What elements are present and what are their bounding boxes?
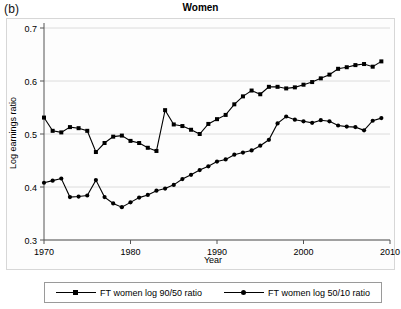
square-marker-icon	[267, 85, 271, 89]
square-marker-icon	[224, 113, 228, 117]
square-marker-icon	[129, 139, 133, 143]
circle-marker-icon	[275, 121, 279, 125]
circle-marker-icon	[51, 179, 55, 183]
square-marker-icon	[180, 124, 184, 128]
square-marker-icon	[85, 129, 89, 133]
y-tick-label: 0.4	[24, 183, 37, 193]
circle-marker-icon	[154, 189, 158, 193]
gridlines	[44, 28, 390, 240]
circle-marker-icon	[180, 177, 184, 181]
square-marker-icon	[327, 73, 331, 77]
circle-marker-icon	[336, 123, 340, 127]
circle-marker-icon	[163, 186, 167, 190]
series-1	[42, 59, 383, 154]
square-marker-icon	[241, 94, 245, 98]
y-tick-label: 0.7	[24, 24, 37, 34]
square-marker-icon	[68, 125, 72, 129]
circle-marker-icon	[284, 114, 288, 118]
circle-marker-icon	[241, 150, 245, 154]
circle-marker-icon	[258, 144, 262, 148]
square-marker-icon	[59, 130, 63, 134]
circle-marker-icon	[206, 164, 210, 168]
circle-marker-icon	[319, 118, 323, 122]
circle-marker-icon	[224, 292, 264, 293]
square-marker-icon	[345, 65, 349, 69]
chart-legend: FT women log 90/50 ratio FT women log 50…	[44, 282, 382, 303]
y-tick-label: 0.3	[24, 236, 37, 246]
x-tick-label: 1970	[34, 247, 54, 257]
square-marker-icon	[319, 76, 323, 80]
legend-item-5010[interactable]: FT women log 50/10 ratio	[224, 288, 370, 298]
x-tick-label: 2000	[293, 247, 313, 257]
circle-marker-icon	[111, 201, 115, 205]
square-marker-icon	[284, 86, 288, 90]
chart-canvas: 0.30.40.50.60.7 19701980199020002010 Log…	[0, 0, 401, 309]
square-marker-icon	[94, 150, 98, 154]
square-marker-icon	[103, 141, 107, 145]
circle-marker-icon	[189, 173, 193, 177]
series-line	[44, 117, 381, 208]
square-marker-icon	[276, 85, 280, 89]
square-marker-icon	[379, 59, 383, 63]
circle-marker-icon	[77, 194, 81, 198]
circle-marker-icon	[327, 119, 331, 123]
circle-marker-icon	[267, 138, 271, 142]
circle-marker-icon	[379, 116, 383, 120]
square-marker-icon	[154, 149, 158, 153]
circle-marker-icon	[137, 196, 141, 200]
circle-marker-icon	[362, 128, 366, 132]
x-axis-title: Year	[204, 255, 222, 265]
square-marker-icon	[77, 126, 81, 130]
square-marker-icon	[198, 132, 202, 136]
square-marker-icon	[111, 135, 115, 139]
y-tick-labels: 0.30.40.50.60.7	[24, 24, 37, 246]
square-marker-icon	[172, 122, 176, 126]
circle-marker-icon	[345, 124, 349, 128]
circle-marker-icon	[224, 157, 228, 161]
figure-women-log-earnings-ratio: (b) Women 0.30.40.50.60.7 19701980199020…	[0, 0, 401, 309]
square-marker-icon	[310, 80, 314, 84]
circle-marker-icon	[353, 125, 357, 129]
circle-marker-icon	[120, 205, 124, 209]
y-tick-label: 0.6	[24, 77, 37, 87]
square-marker-icon	[146, 146, 150, 150]
legend-label-9050: FT women log 90/50 ratio	[100, 288, 202, 298]
circle-marker-icon	[310, 121, 314, 125]
circle-marker-icon	[293, 118, 297, 122]
square-marker-icon	[215, 117, 219, 121]
circle-marker-icon	[102, 195, 106, 199]
circle-marker-icon	[42, 181, 46, 185]
circle-marker-icon	[232, 153, 236, 157]
legend-label-5010: FT women log 50/10 ratio	[268, 288, 370, 298]
series-2	[42, 114, 384, 209]
square-marker-icon	[189, 128, 193, 132]
y-tick-label: 0.5	[24, 130, 37, 140]
square-marker-icon	[353, 63, 357, 67]
square-marker-icon	[258, 92, 262, 96]
square-marker-icon	[302, 83, 306, 87]
circle-marker-icon	[301, 119, 305, 123]
circle-marker-icon	[128, 200, 132, 204]
square-marker-icon	[137, 141, 141, 145]
circle-marker-icon	[371, 119, 375, 123]
circle-marker-icon	[94, 178, 98, 182]
x-tick-label: 2010	[380, 247, 400, 257]
square-marker-icon	[250, 89, 254, 93]
square-marker-icon	[51, 129, 55, 133]
legend-item-9050[interactable]: FT women log 90/50 ratio	[56, 288, 202, 298]
square-marker-icon	[163, 108, 167, 112]
circle-marker-icon	[68, 195, 72, 199]
square-marker-icon	[362, 62, 366, 66]
circle-marker-icon	[85, 193, 89, 197]
square-marker-icon	[206, 122, 210, 126]
square-marker-icon	[120, 134, 124, 138]
square-marker-icon	[336, 67, 340, 71]
y-axis-title: Log earnings ratio	[8, 97, 18, 169]
square-marker-icon	[371, 65, 375, 69]
square-marker-icon	[293, 85, 297, 89]
circle-marker-icon	[215, 159, 219, 163]
square-marker-icon	[232, 102, 236, 106]
circle-marker-icon	[250, 148, 254, 152]
x-tick-label: 1980	[120, 247, 140, 257]
square-marker-icon	[56, 292, 96, 293]
